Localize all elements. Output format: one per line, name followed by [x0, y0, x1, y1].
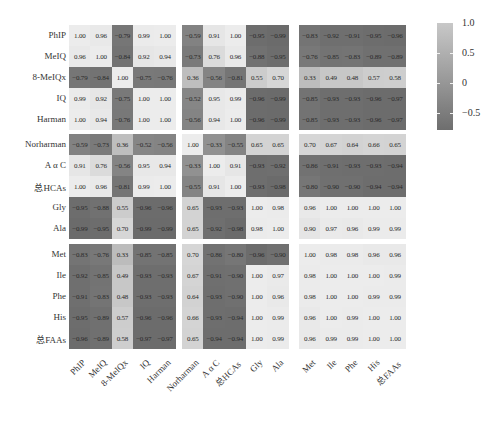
heatmap-cell: −0.99: [69, 218, 91, 239]
row-label: MeIQ: [45, 51, 67, 61]
heatmap-cell: −0.96: [363, 109, 385, 130]
heatmap-cell: 0.76: [203, 46, 225, 67]
heatmap-cell: −0.95: [69, 197, 91, 218]
heatmap-cell: 1.00: [363, 328, 385, 349]
heatmap-cell: −0.90: [225, 265, 247, 286]
heatmap-cell: 0.96: [90, 25, 112, 46]
heatmap-cell: −0.96: [246, 88, 268, 109]
heatmap-cell: 0.94: [154, 155, 176, 176]
heatmap-cell: −0.90: [342, 176, 364, 197]
colorbar-tick-label: 1.0: [462, 17, 475, 28]
heatmap-cell: 0.99: [363, 218, 385, 239]
heatmap-cell: 1.00: [154, 176, 176, 197]
heatmap-cell: −0.93: [225, 197, 247, 218]
heatmap-cell: 0.97: [267, 265, 289, 286]
heatmap-cell: 0.96: [299, 307, 321, 328]
heatmap-cell: 0.58: [384, 67, 406, 88]
heatmap-cell: 0.65: [246, 134, 268, 155]
heatmap-cell: −0.95: [90, 218, 112, 239]
heatmap-cell: 1.00: [320, 265, 342, 286]
heatmap-cell: −0.93: [203, 286, 225, 307]
heatmap-cell: 0.64: [342, 134, 364, 155]
heatmap-cell: 1.00: [363, 307, 385, 328]
heatmap-cell: 0.70: [112, 218, 134, 239]
heatmap-cell: 1.00: [246, 328, 268, 349]
heatmap-cell: −0.89: [384, 46, 406, 67]
heatmap-cell: −0.95: [246, 25, 268, 46]
heatmap-cell: 1.00: [299, 244, 321, 265]
heatmap-cell: 0.99: [342, 328, 364, 349]
heatmap-cell: 0.99: [133, 176, 155, 197]
heatmap-cell: 1.00: [133, 88, 155, 109]
heatmap-cell: 0.70: [299, 134, 321, 155]
heatmap-cell: −0.93: [203, 197, 225, 218]
heatmap-cell: 0.65: [267, 134, 289, 155]
heatmap-cell: 1.00: [154, 25, 176, 46]
heatmap-cell: −0.94: [203, 328, 225, 349]
heatmap-cell: 0.57: [363, 67, 385, 88]
heatmap-cell: −0.56: [203, 67, 225, 88]
heatmap-cell: 1.00: [69, 109, 91, 130]
row-label: Norharman: [25, 139, 66, 149]
heatmap-cell: 0.55: [112, 197, 134, 218]
heatmap-cell: −0.90: [267, 244, 289, 265]
heatmap-cell: 0.98: [299, 286, 321, 307]
heatmap-cell: 1.00: [225, 176, 247, 197]
heatmap-cell: −0.95: [69, 307, 91, 328]
heatmap-cell: −0.59: [182, 25, 204, 46]
heatmap-cell: 1.00: [182, 134, 204, 155]
heatmap-cell: −0.89: [90, 328, 112, 349]
heatmap-cell: −0.93: [342, 88, 364, 109]
row-label: Gly: [53, 202, 67, 212]
heatmap-cell: −0.52: [133, 134, 155, 155]
heatmap-cell: −0.85: [299, 109, 321, 130]
heatmap-cell: −0.93: [342, 109, 364, 130]
heatmap-cell: −0.94: [225, 328, 247, 349]
heatmap-cell: 1.00: [320, 197, 342, 218]
heatmap-cell: 0.96: [299, 197, 321, 218]
heatmap-cell: −0.88: [246, 46, 268, 67]
heatmap-cell: −0.85: [299, 88, 321, 109]
heatmap-cell: −0.76: [299, 46, 321, 67]
heatmap-cell: 1.00: [133, 109, 155, 130]
heatmap-cell: 1.00: [154, 109, 176, 130]
heatmap-cell: −0.76: [112, 109, 134, 130]
heatmap-cell: −0.83: [90, 286, 112, 307]
heatmap-cell: 0.65: [384, 134, 406, 155]
heatmap-cell: −0.91: [69, 286, 91, 307]
heatmap-cell: −0.99: [154, 218, 176, 239]
heatmap-cell: −0.79: [69, 67, 91, 88]
heatmap-cell: −0.83: [69, 244, 91, 265]
heatmap-cell: −0.80: [299, 176, 321, 197]
heatmap-cell: −0.88: [90, 197, 112, 218]
heatmap-cell: −0.93: [133, 286, 155, 307]
heatmap-cell: 0.95: [133, 155, 155, 176]
heatmap-cell: −0.93: [363, 155, 385, 176]
heatmap-cell: 1.00: [69, 176, 91, 197]
heatmap-cell: −0.86: [299, 155, 321, 176]
row-label: IQ: [57, 93, 67, 103]
heatmap-cell: −0.92: [69, 265, 91, 286]
heatmap-cell: −0.75: [133, 67, 155, 88]
heatmap-cell: −0.86: [203, 244, 225, 265]
row-label: Ile: [57, 270, 67, 280]
heatmap-cell: 0.70: [267, 67, 289, 88]
heatmap-cell: 0.91: [203, 176, 225, 197]
heatmap-cell: 1.00: [154, 88, 176, 109]
heatmap-cell: −0.94: [384, 155, 406, 176]
heatmap-cell: −0.80: [225, 244, 247, 265]
heatmap-cell: −0.73: [90, 134, 112, 155]
heatmap-cell: −0.90: [225, 286, 247, 307]
heatmap-cell: −0.89: [90, 307, 112, 328]
heatmap-cell: 1.00: [384, 307, 406, 328]
heatmap-cell: 0.99: [267, 307, 289, 328]
row-labels: PhIPMeIQ8-MeIQxIQHarmanNorharmanA α C总HC…: [0, 0, 66, 360]
heatmap-cell: 1.00: [225, 25, 247, 46]
heatmap-cell: 0.98: [246, 218, 268, 239]
row-label: Ala: [53, 223, 66, 233]
row-label: 8-MeIQx: [33, 72, 67, 82]
heatmap-cell: 0.96: [363, 244, 385, 265]
heatmap-cell: 0.96: [299, 328, 321, 349]
colorbar-tick-label: −0.5: [462, 107, 480, 118]
heatmap-cell: −0.97: [154, 328, 176, 349]
